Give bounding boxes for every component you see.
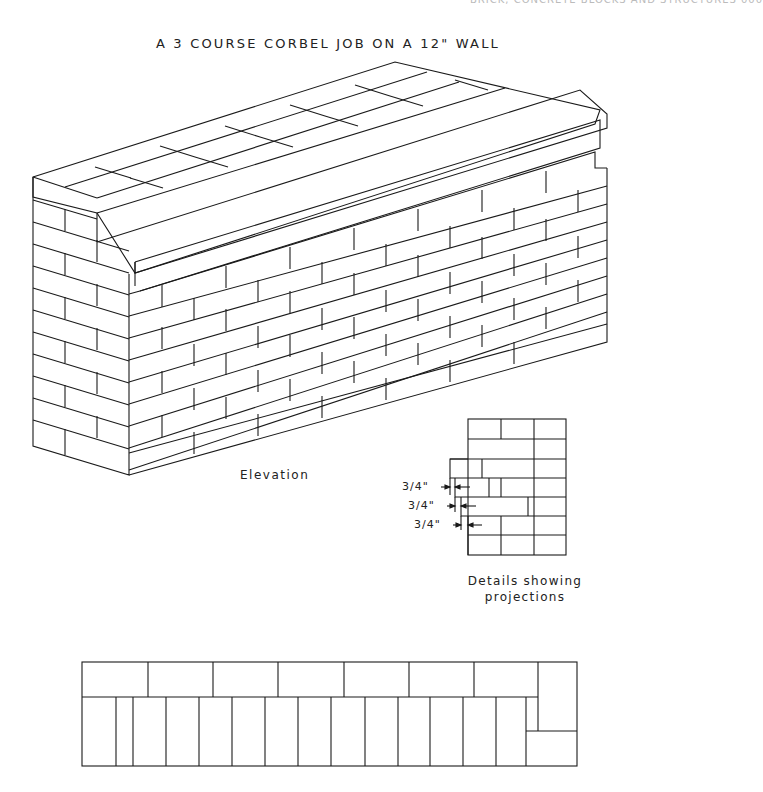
- dimension-label-2: 3/4": [408, 499, 435, 512]
- front-face-courses: [129, 186, 607, 470]
- detail-projections-view: [441, 419, 566, 555]
- wall-top-surface: [33, 62, 600, 273]
- detail-caption-line1: Details showing: [460, 573, 590, 589]
- wall-front-face: [129, 168, 607, 475]
- corbel-course-2: [135, 120, 600, 291]
- end-face-courses: [33, 200, 129, 455]
- corbel-course-3: [140, 152, 607, 291]
- elevation-view: [33, 62, 607, 475]
- detail-caption: Details showing projections: [460, 573, 590, 605]
- dimension-label-1: 3/4": [402, 480, 429, 493]
- wall-end-face: [33, 177, 129, 475]
- elevation-label: Elevation: [240, 468, 309, 482]
- front-face-joints: [162, 171, 578, 454]
- plan-view: [82, 662, 577, 766]
- corbel-course-1: [97, 90, 607, 273]
- dimension-label-3: 3/4": [414, 518, 441, 531]
- detail-caption-line2: projections: [460, 589, 590, 605]
